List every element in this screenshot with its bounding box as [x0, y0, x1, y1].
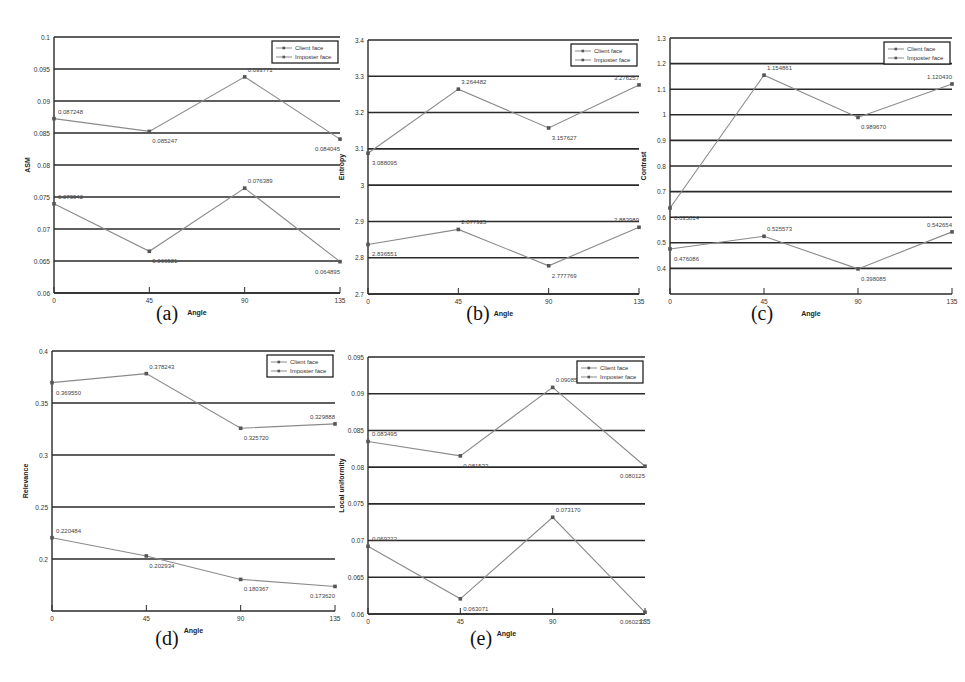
gridlines: 2.72.82.933.13.23.33.4: [355, 37, 639, 298]
legend-entry-client-face: Client face: [907, 46, 936, 52]
y-tick-label: 1.1: [657, 86, 666, 93]
data-label: 0.325720: [244, 435, 270, 441]
y-tick-label: 0.4: [39, 348, 48, 355]
data-label: 1.154861: [767, 65, 793, 71]
y-tick-label: 3.4: [355, 37, 364, 44]
series-imposter-face: 2.8365512.8779252.7777692.883989: [366, 217, 641, 279]
data-point-marker: [762, 73, 766, 77]
data-point-marker: [637, 225, 641, 229]
series-client-face: 0.0872480.0852470.0937710.084045: [52, 67, 342, 152]
data-point-marker: [145, 372, 149, 376]
series-imposter-face: 0.4760860.5255730.3980850.542654: [668, 222, 954, 282]
data-point-marker: [547, 264, 551, 268]
data-label: 3.276257: [614, 75, 640, 81]
y-tick-label: 0.095: [348, 354, 365, 361]
data-label: 0.060237: [620, 619, 646, 625]
legend-entry-imposter-face: Imposter face: [907, 55, 944, 61]
data-point-marker: [668, 247, 672, 251]
data-label: 1.120430: [927, 74, 953, 80]
x-axis: 04590135: [366, 608, 651, 625]
y-tick-label: 0.06: [37, 290, 50, 297]
y-axis-title: Local uniformity: [338, 458, 346, 513]
legend: Client faceImposter face: [577, 361, 643, 383]
y-tick-label: 0.8: [657, 163, 666, 170]
x-tick-label: 45: [143, 615, 151, 622]
subfigure-caption-e: (e): [451, 627, 511, 650]
series-client-face: 0.0834950.0815320.0908590.080125: [366, 377, 647, 479]
y-tick-label: 0.09: [351, 390, 364, 397]
subfigure-caption-c: (c): [732, 302, 792, 325]
data-point-marker: [333, 422, 337, 426]
data-point-marker: [459, 454, 463, 458]
x-tick-label: 0: [52, 297, 56, 304]
data-label: 0.085247: [152, 138, 178, 144]
data-point-marker: [459, 597, 463, 601]
data-point-marker: [950, 230, 954, 234]
y-tick-label: 1.2: [657, 60, 666, 67]
y-tick-label: 2.8: [355, 254, 364, 261]
x-axis: 04590135: [50, 605, 341, 622]
data-label: 0.398085: [861, 276, 887, 282]
data-point-marker: [333, 585, 337, 589]
x-tick-label: 90: [549, 618, 557, 625]
x-tick-label: 0: [668, 298, 672, 305]
data-point-marker: [856, 116, 860, 120]
y-tick-label: 3: [360, 182, 364, 189]
legend-entry-imposter-face: Imposter face: [600, 374, 637, 380]
y-tick-label: 0.4: [657, 265, 666, 272]
subfigure-caption-a: (a): [137, 302, 197, 325]
y-tick-label: 0.35: [35, 400, 48, 407]
legend: Client faceImposter face: [267, 355, 333, 377]
data-label: 0.087248: [58, 109, 84, 115]
data-label: 2.777769: [552, 273, 578, 279]
data-label: 0.069222: [372, 536, 398, 542]
x-tick-label: 90: [854, 298, 862, 305]
y-tick-label: 0.085: [34, 130, 51, 137]
y-tick-label: 3.1: [355, 145, 364, 152]
chart-panel-b: 2.72.82.933.13.23.33.404590135AngleEntro…: [368, 40, 639, 294]
data-point-marker: [148, 130, 152, 134]
chart-svg-d: 0.20.250.30.350.404590135AngleRelevance0…: [52, 351, 335, 641]
data-point-marker: [551, 386, 555, 390]
chart-svg-e: 0.060.0650.070.0750.080.0850.090.0950459…: [368, 357, 645, 644]
data-label: 3.264482: [461, 79, 487, 85]
legend-entry-client-face: Client face: [295, 45, 324, 51]
y-axis-title: Relevance: [22, 464, 29, 499]
x-axis-title: Angle: [801, 310, 821, 318]
data-label: 0.076389: [248, 178, 274, 184]
series-imposter-face: 0.0739420.0665210.0763890.064895: [52, 178, 342, 275]
y-tick-label: 0.7: [657, 188, 666, 195]
data-point-marker: [950, 82, 954, 86]
data-label: 3.088095: [372, 160, 398, 166]
data-label: 2.883989: [614, 217, 640, 223]
data-point-marker: [243, 75, 247, 79]
subfigure-caption-d: (d): [137, 627, 197, 650]
x-tick-label: 135: [335, 297, 346, 304]
y-tick-label: 0.2: [39, 556, 48, 563]
x-axis: 04590135: [52, 287, 346, 304]
legend: Client faceImposter face: [571, 44, 637, 66]
y-tick-label: 0.08: [351, 464, 364, 471]
data-point-marker: [338, 260, 342, 264]
data-label: 0.073942: [58, 194, 84, 200]
y-tick-label: 0.065: [348, 574, 365, 581]
series-imposter-face: 0.0692220.0630710.0731700.060237: [366, 507, 647, 625]
x-tick-label: 0: [366, 618, 370, 625]
y-axis-title: Contrast: [640, 151, 647, 180]
data-point-marker: [637, 83, 641, 87]
data-point-marker: [668, 206, 672, 210]
y-tick-label: 2.9: [355, 218, 364, 225]
data-label: 0.329888: [310, 414, 336, 420]
data-label: 0.525573: [767, 226, 793, 232]
chart-svg-b: 2.72.82.933.13.23.33.404590135AngleEntro…: [368, 40, 639, 324]
y-tick-label: 0.6: [657, 214, 666, 221]
data-point-marker: [50, 381, 54, 385]
y-tick-label: 0.1: [41, 34, 50, 41]
legend-entry-imposter-face: Imposter face: [290, 368, 327, 374]
data-point-marker: [366, 440, 370, 444]
data-label: 0.542654: [927, 222, 953, 228]
series-client-face: 3.0880953.2644823.1576273.276257: [366, 75, 641, 166]
data-point-marker: [551, 515, 555, 519]
data-label: 0.180367: [244, 586, 270, 592]
x-tick-label: 135: [634, 298, 645, 305]
